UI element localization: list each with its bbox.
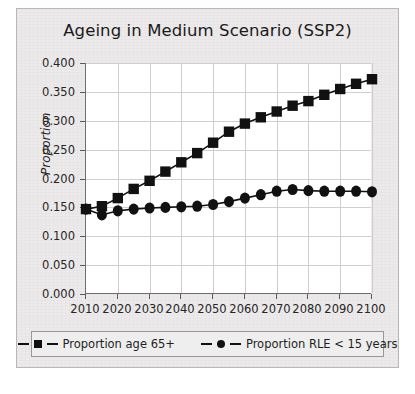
circle-marker bbox=[129, 204, 139, 215]
y-axis-tick-label: 0.250 bbox=[42, 143, 75, 157]
square-marker bbox=[34, 340, 42, 348]
y-axis-tick-label: 0.050 bbox=[42, 258, 75, 272]
y-axis-tick-label: 0.200 bbox=[42, 172, 75, 186]
square-marker bbox=[160, 166, 170, 176]
circle-marker bbox=[240, 193, 250, 204]
square-marker bbox=[224, 127, 234, 137]
circle-marker bbox=[176, 201, 186, 212]
legend-line bbox=[47, 343, 58, 345]
x-axis-tick bbox=[339, 294, 340, 299]
square-marker bbox=[144, 176, 154, 186]
legend-entry: Proportion RLE < 15 years bbox=[201, 337, 398, 351]
circle-marker bbox=[288, 184, 298, 195]
circle-marker bbox=[145, 202, 155, 213]
legend-line bbox=[18, 343, 29, 345]
circle-marker bbox=[208, 199, 218, 210]
circle-marker bbox=[351, 186, 361, 197]
x-axis-tick bbox=[85, 294, 86, 299]
gridline-vertical bbox=[372, 63, 373, 293]
chart-figure: Ageing in Medium Scenario (SSP2) Proport… bbox=[16, 8, 399, 368]
y-axis-tick-label: 0.000 bbox=[42, 287, 75, 301]
x-axis-tick bbox=[244, 294, 245, 299]
square-marker bbox=[303, 96, 313, 106]
chart-title: Ageing in Medium Scenario (SSP2) bbox=[17, 21, 398, 40]
x-axis-tick bbox=[371, 294, 372, 299]
circle-marker bbox=[335, 186, 345, 197]
legend-line bbox=[230, 343, 241, 345]
circle-marker bbox=[97, 209, 107, 220]
square-marker bbox=[319, 90, 329, 100]
legend-label: Proportion RLE < 15 years bbox=[246, 337, 398, 351]
legend-label: Proportion age 65+ bbox=[63, 337, 175, 351]
circle-marker bbox=[224, 196, 234, 207]
square-marker bbox=[256, 112, 266, 122]
y-axis-tick-label: 0.350 bbox=[42, 85, 75, 99]
x-axis-tick bbox=[276, 294, 277, 299]
square-marker bbox=[272, 106, 282, 116]
circle-marker bbox=[367, 186, 377, 197]
circle-marker bbox=[272, 186, 282, 197]
square-marker bbox=[335, 84, 345, 94]
y-axis-tick-label: 0.150 bbox=[42, 200, 75, 214]
chart-legend: Proportion age 65+Proportion RLE < 15 ye… bbox=[31, 331, 384, 357]
plot-area bbox=[85, 63, 371, 294]
circle-marker bbox=[81, 204, 91, 215]
square-marker bbox=[367, 74, 377, 84]
square-marker bbox=[240, 118, 250, 128]
circle-marker bbox=[319, 186, 329, 197]
circle-marker bbox=[160, 202, 170, 213]
square-marker bbox=[208, 138, 218, 148]
y-axis-tick-label: 0.300 bbox=[42, 114, 75, 128]
circle-marker bbox=[303, 185, 313, 196]
x-axis-tick bbox=[149, 294, 150, 299]
square-marker bbox=[287, 101, 297, 111]
x-axis-tick bbox=[212, 294, 213, 299]
x-axis-tick bbox=[117, 294, 118, 299]
circle-marker bbox=[192, 201, 202, 212]
circle-marker bbox=[256, 189, 266, 200]
circle-marker bbox=[113, 205, 123, 216]
square-marker bbox=[176, 157, 186, 167]
legend-line bbox=[201, 343, 212, 345]
square-marker bbox=[192, 148, 202, 158]
circle-marker bbox=[217, 340, 225, 348]
square-marker bbox=[129, 184, 139, 194]
legend-entry: Proportion age 65+ bbox=[18, 337, 175, 351]
y-axis-tick-label: 0.100 bbox=[42, 229, 75, 243]
y-axis-tick-label: 0.400 bbox=[42, 56, 75, 70]
square-marker bbox=[351, 79, 361, 89]
x-axis-tick bbox=[307, 294, 308, 299]
square-marker bbox=[113, 193, 123, 203]
data-series-layer bbox=[86, 63, 372, 294]
x-axis-tick-label: 2100 bbox=[351, 302, 391, 316]
x-axis-tick bbox=[180, 294, 181, 299]
